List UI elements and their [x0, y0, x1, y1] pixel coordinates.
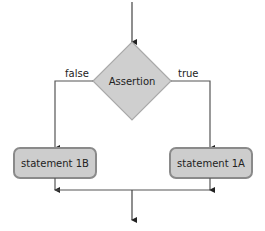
statement-1a-label: statement 1A: [177, 158, 245, 169]
true-label: true: [178, 68, 199, 79]
decision-node: Assertion: [93, 42, 171, 120]
statement-1a-box: statement 1A: [170, 148, 252, 178]
true-branch-line: [171, 81, 210, 148]
flowchart: Assertion false true statement 1B statem…: [0, 0, 265, 231]
statement-1b-label: statement 1B: [21, 158, 89, 169]
false-label: false: [65, 68, 89, 79]
decision-label: Assertion: [109, 76, 156, 87]
false-branch-line: [55, 81, 93, 148]
statement-1b-box: statement 1B: [14, 148, 96, 178]
